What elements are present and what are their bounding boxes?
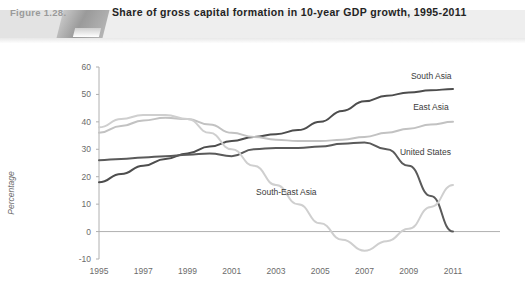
x-tick-label: 2005 xyxy=(311,266,330,276)
x-tick-label: 2009 xyxy=(399,266,418,276)
x-tick-label: 1999 xyxy=(178,266,197,276)
y-tick-label: 0 xyxy=(86,227,91,237)
x-tick-label: 2011 xyxy=(444,266,463,276)
chart-plot-area: 6050403020100-10 19951997199920012003200… xyxy=(0,43,525,287)
series-label-east-asia: East Asia xyxy=(413,102,449,112)
y-tick-labels: 6050403020100-10 xyxy=(79,62,92,264)
y-tick-label: -10 xyxy=(79,254,92,264)
y-tick-label: 30 xyxy=(82,144,92,154)
series-label-south-asia: South Asia xyxy=(411,71,452,81)
header-wedge-shadow xyxy=(73,28,101,37)
x-tick-label: 2007 xyxy=(355,266,374,276)
y-tick-label: 40 xyxy=(82,117,92,127)
y-tick-label: 20 xyxy=(82,172,92,182)
line-chart-svg: 6050403020100-10 19951997199920012003200… xyxy=(0,43,525,287)
figure-title-label: Share of gross capital formation in 10-y… xyxy=(112,6,467,18)
figure-number-label: Figure 1.28. xyxy=(10,7,66,18)
y-axis-title: Percentage xyxy=(6,171,16,215)
series-label-united-states: United States xyxy=(400,147,451,157)
x-tick-label: 1995 xyxy=(90,266,109,276)
chart-series-lines xyxy=(99,89,453,251)
x-tick-label: 2001 xyxy=(222,266,241,276)
y-tick-label: 60 xyxy=(82,62,92,72)
x-tick-labels: 199519971999200120032005200720092011 xyxy=(90,266,463,276)
x-tick-label: 2003 xyxy=(267,266,286,276)
series-line-south-asia xyxy=(99,89,453,182)
y-tick-label: 10 xyxy=(82,199,92,209)
y-tick-label: 50 xyxy=(82,89,92,99)
series-line-south-east-asia xyxy=(99,115,453,251)
chart-axes xyxy=(99,67,500,259)
series-label-south-east-asia: South-East Asia xyxy=(256,187,317,197)
series-line-east-asia xyxy=(99,118,453,141)
x-tick-label: 1997 xyxy=(134,266,153,276)
